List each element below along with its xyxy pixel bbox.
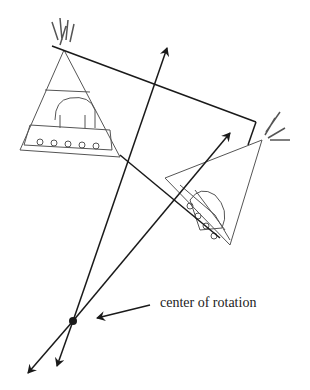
center-of-rotation-label: center of rotation (160, 295, 256, 311)
extension-arrow-2 (57, 321, 73, 366)
rotation-vectors (28, 48, 230, 373)
rotation-diagram (0, 0, 310, 390)
label-pointer-arrow (97, 305, 150, 318)
extension-arrow-1 (28, 321, 73, 373)
teepee-rotated (165, 112, 290, 245)
center-point (69, 317, 77, 325)
vector-to-original (73, 48, 167, 321)
teepee-original (20, 18, 120, 157)
